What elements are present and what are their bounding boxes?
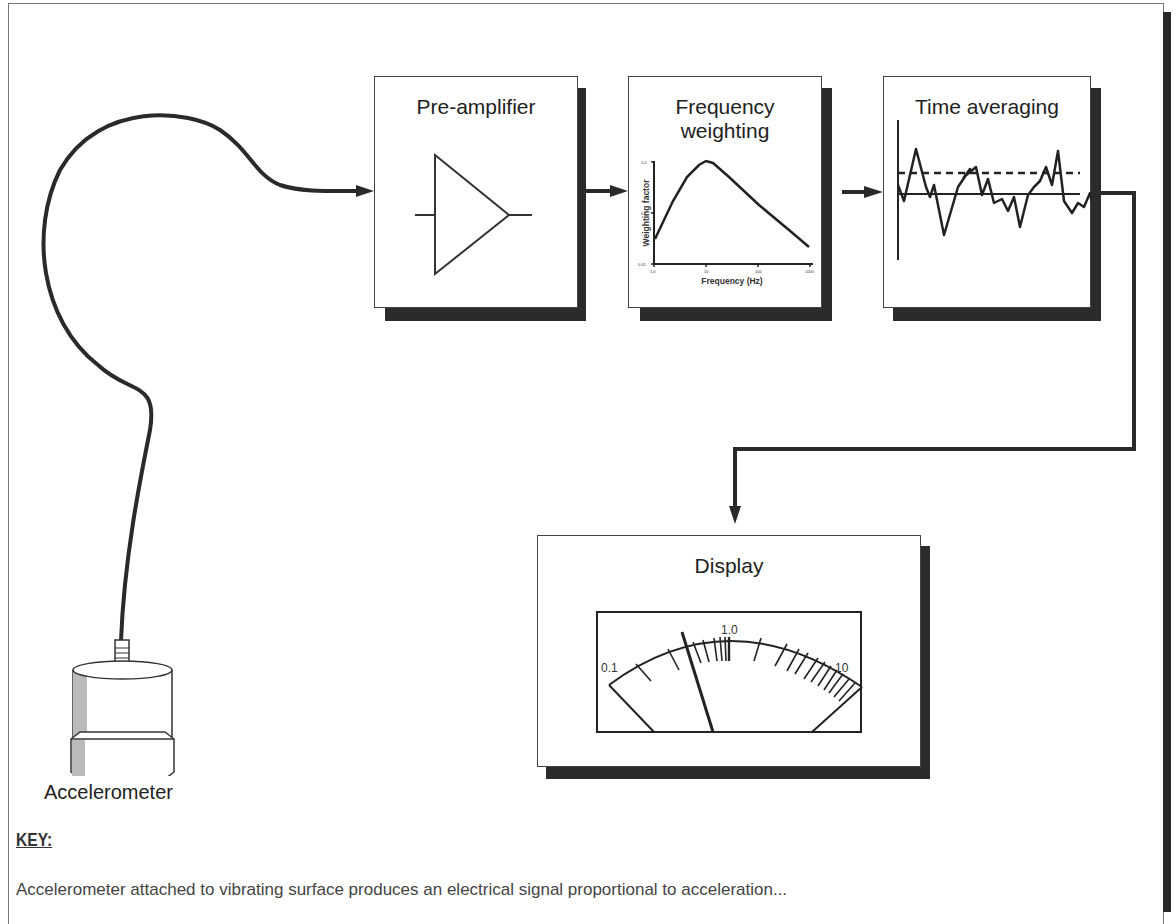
arrow-to-display bbox=[729, 506, 741, 524]
arrow-to-freq bbox=[610, 185, 628, 197]
accelerometer-label: Accelerometer bbox=[44, 781, 173, 804]
arrow-to-preamp bbox=[356, 185, 374, 197]
arrow-to-time bbox=[864, 186, 883, 198]
accelerometer-cable bbox=[44, 115, 358, 641]
time-to-display-line bbox=[735, 193, 1134, 508]
key-heading: KEY: bbox=[16, 829, 52, 851]
accelerometer-icon bbox=[60, 636, 210, 776]
key-text: Accelerometer attached to vibrating surf… bbox=[16, 880, 1156, 900]
